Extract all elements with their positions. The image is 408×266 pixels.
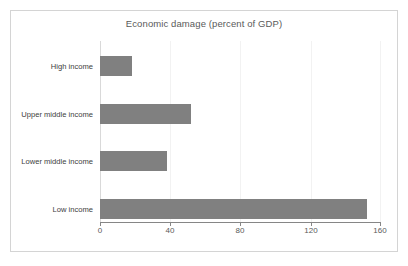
x-tick-label: 160 — [373, 226, 386, 235]
category-label: High income — [51, 62, 93, 71]
gridline-160 — [380, 41, 381, 223]
category-label: Lower middle income — [21, 157, 93, 166]
chart-frame: Economic damage (percent of GDP) High in… — [10, 10, 398, 252]
x-tick-label: 80 — [236, 226, 245, 235]
category-label: Low income — [52, 205, 93, 214]
gridline-120 — [311, 41, 312, 223]
bar-lower-middle-income[interactable] — [100, 151, 167, 171]
x-tick-label: 40 — [166, 226, 175, 235]
x-tick-label: 0 — [98, 226, 102, 235]
plot-area: High income Upper middle income Lower mi… — [100, 41, 381, 223]
x-tick-label: 120 — [304, 226, 317, 235]
category-label: Upper middle income — [21, 110, 93, 119]
bar-low-income[interactable] — [100, 199, 367, 219]
gridline-80 — [240, 41, 241, 223]
gridline-40 — [170, 41, 171, 223]
bar-upper-middle-income[interactable] — [100, 104, 191, 124]
chart-title: Economic damage (percent of GDP) — [11, 18, 397, 29]
bar-high-income[interactable] — [100, 56, 132, 76]
